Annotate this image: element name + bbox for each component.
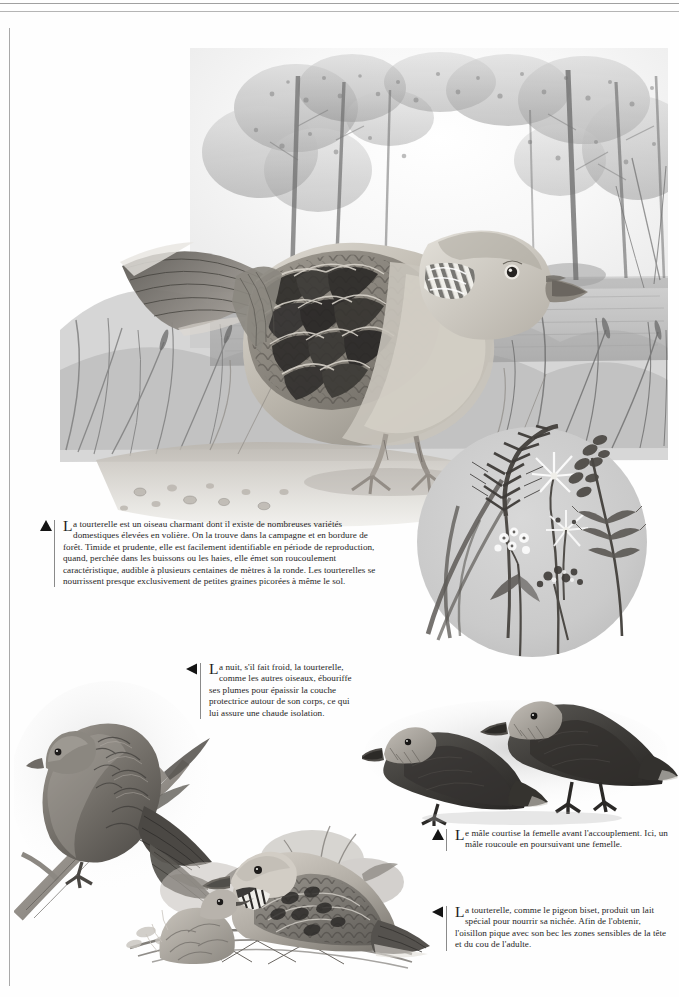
caption-body: e mâle courtise la femelle avant l'accou… — [465, 828, 668, 849]
illustration-two-doves-courtship-silhouettes — [362, 692, 678, 828]
caption-night-insulation: La nuit, s'il fait froid, la tourterelle… — [184, 662, 362, 719]
caption-dropcap: L — [209, 663, 219, 674]
triangle-up-icon — [38, 519, 54, 533]
caption-rule — [54, 520, 55, 587]
page-left-rule — [9, 28, 10, 986]
page-top-rule-outer — [0, 3, 679, 4]
caption-rule — [446, 906, 447, 951]
triangle-left-icon — [184, 662, 200, 676]
page-top-rule-inner — [0, 11, 679, 12]
caption-rule — [446, 829, 447, 851]
caption-main-text: La tourterelle est un oiseau charmant do… — [63, 519, 383, 587]
caption-body: a nuit, s'il fait froid, la tourterelle,… — [209, 662, 352, 718]
caption-main-description: La tourterelle est un oiseau charmant do… — [38, 519, 388, 587]
caption-courtship: Le mâle courtise la femelle avant l'acco… — [430, 828, 674, 851]
caption-crop-milk: La tourterelle, comme le pigeon biset, p… — [430, 905, 674, 951]
plate-page: La tourterelle est un oiseau charmant do… — [0, 0, 679, 997]
caption-milk-text: La tourterelle, comme le pigeon biset, p… — [455, 905, 673, 951]
caption-dropcap: L — [455, 906, 465, 917]
triangle-left-icon — [430, 905, 446, 919]
caption-body: a tourterelle est un oiseau charmant don… — [63, 519, 375, 586]
caption-rule — [200, 663, 201, 719]
illustration-circular-inset-grasses-and-wildflowers — [408, 424, 656, 659]
illustration-dove-feeding-chick-at-nest — [112, 812, 432, 972]
caption-night-text: La nuit, s'il fait froid, la tourterelle… — [209, 662, 361, 719]
caption-body: a tourterelle, comme le pigeon biset, pr… — [455, 905, 666, 949]
caption-dropcap: L — [455, 829, 465, 840]
triangle-up-icon — [430, 828, 446, 842]
caption-dropcap: L — [63, 520, 73, 531]
caption-courtship-text: Le mâle courtise la femelle avant l'acco… — [455, 828, 673, 851]
